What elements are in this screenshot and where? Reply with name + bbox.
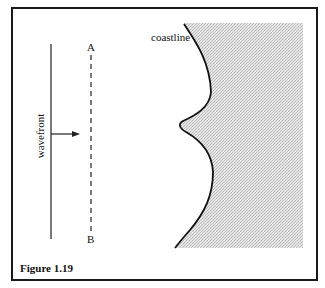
coastline-label: coastline: [151, 31, 190, 43]
point-b-label: B: [87, 233, 94, 245]
arrowhead-icon: [72, 131, 80, 137]
wavefront-label: wavefront: [34, 114, 46, 159]
diagram-canvas: [0, 0, 325, 288]
point-a-label: A: [87, 41, 95, 53]
land-region: [175, 23, 303, 248]
figure-caption: Figure 1.19: [20, 262, 73, 274]
